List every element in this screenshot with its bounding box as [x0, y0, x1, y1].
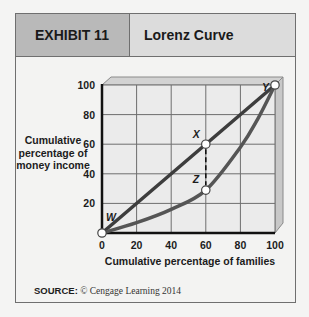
point-marker-z [202, 186, 210, 194]
x-axis-label: Cumulative percentage of families [100, 255, 280, 267]
x-tick-label: 20 [131, 239, 143, 251]
y-tick-label: 80 [83, 109, 95, 121]
x-tick-label: 60 [200, 239, 212, 251]
plot-top-panel [102, 77, 283, 85]
source-text: © Cengage Learning 2014 [80, 286, 181, 296]
source-note: SOURCE: © Cengage Learning 2014 [34, 285, 181, 296]
y-tick-label: 20 [83, 197, 95, 209]
point-label-x: X [192, 128, 201, 140]
y-tick-label: 100 [77, 79, 95, 91]
x-tick-label: 40 [165, 239, 177, 251]
source-label: SOURCE: [34, 285, 78, 296]
x-tick-label: 80 [235, 239, 247, 251]
x-tick-label: 0 [99, 239, 105, 251]
point-marker-w [98, 229, 106, 237]
point-label-y: Y [262, 81, 270, 93]
point-label-z: Z [192, 173, 200, 185]
point-marker-y [271, 81, 279, 89]
x-tick-label: 100 [266, 239, 284, 251]
point-marker-x [202, 140, 210, 148]
y-axis-label: Cumulative percentage of money income [16, 134, 90, 172]
plot-side-panel [275, 77, 283, 233]
point-label-w: W [106, 211, 117, 223]
